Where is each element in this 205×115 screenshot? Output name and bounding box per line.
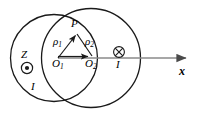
cross-in-circle-icon <box>114 47 125 58</box>
origin1-label: O1 <box>52 58 64 70</box>
physics-figure: P ρ1 ρ2 O1 O2 Z I I x <box>0 0 205 115</box>
origin1-subscript: 1 <box>60 62 64 71</box>
origin2-subscript: 2 <box>93 62 97 71</box>
dot-in-circle-icon <box>21 62 32 73</box>
current-right-label: I <box>116 59 120 70</box>
rho2-label: ρ2 <box>85 36 94 48</box>
current-left-label: I <box>31 81 35 92</box>
z-axis-label: Z <box>21 49 27 60</box>
origin2-label: O2 <box>85 58 97 70</box>
figure-canvas <box>0 0 205 115</box>
rho1-label: ρ1 <box>53 36 62 48</box>
rho2-subscript: 2 <box>90 40 94 49</box>
origin1-symbol: O <box>52 57 60 69</box>
x-axis-label: x <box>179 65 185 77</box>
origin2-symbol: O <box>85 57 93 69</box>
rho1-subscript: 1 <box>58 40 62 49</box>
point-p-label: P <box>71 18 78 29</box>
